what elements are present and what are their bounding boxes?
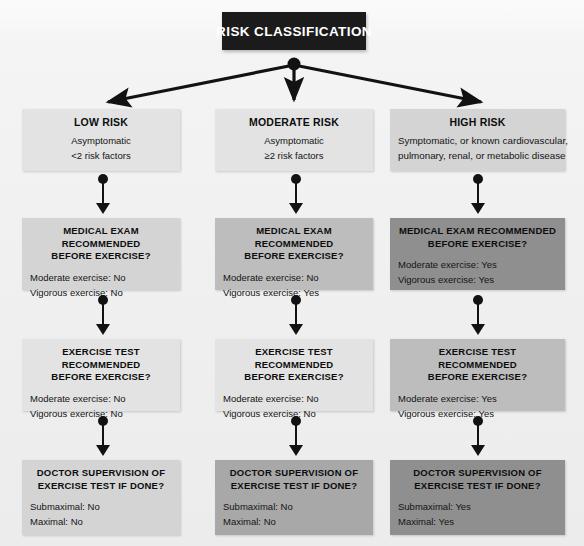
- connector-stem: [102, 182, 104, 204]
- medical-exam-moderate-high-risk: Moderate exercise: Yes: [398, 257, 557, 272]
- fanout-origin-dot: [288, 58, 301, 71]
- medical-exam-moderate-low-risk: Moderate exercise: No: [30, 270, 172, 285]
- exercise-test-title-line2-low-risk: BEFORE EXERCISE?: [30, 371, 172, 384]
- connector-stem: [295, 182, 297, 204]
- category-line2-low-risk: <2 risk factors: [30, 148, 172, 163]
- connector-exercise-test-to-supervision-moderate-risk: [288, 416, 304, 456]
- connector-stem: [102, 303, 104, 325]
- category-name-high-risk: HIGH RISK: [398, 116, 557, 129]
- supervision-maximal-low-risk: Maximal: No: [30, 514, 172, 529]
- exercise-test-moderate-moderate-risk: Moderate exercise: No: [223, 391, 365, 406]
- exercise-test-moderate-high-risk: Moderate exercise: Yes: [398, 391, 557, 406]
- supervision-maximal-moderate-risk: Maximal: No: [223, 514, 365, 529]
- medical-exam-title-line1-low-risk: MEDICAL EXAM RECOMMENDED: [30, 225, 172, 250]
- category-box-high-risk: HIGH RISK Symptomatic, or known cardiova…: [390, 109, 565, 171]
- connector-moderate-risk-to-medical-exam: [288, 174, 304, 214]
- connector-arrowhead: [289, 203, 303, 214]
- medical-exam-box-moderate-risk: MEDICAL EXAM RECOMMENDED BEFORE EXERCISE…: [215, 218, 373, 290]
- medical-exam-title-line2-high-risk: BEFORE EXERCISE?: [398, 238, 557, 251]
- category-name-low-risk: LOW RISK: [30, 116, 172, 129]
- supervision-title-line1-moderate-risk: DOCTOR SUPERVISION OF: [223, 467, 365, 480]
- connector-arrowhead: [471, 203, 485, 214]
- arrow-to-high-risk: [294, 65, 481, 102]
- connector-arrowhead: [471, 445, 485, 456]
- connector-stem: [477, 303, 479, 325]
- medical-exam-title-line1-moderate-risk: MEDICAL EXAM RECOMMENDED: [223, 225, 365, 250]
- category-line2-high-risk: pulmonary, renal, or metabolic disease: [398, 148, 557, 163]
- connector-stem: [477, 424, 479, 446]
- category-line1-high-risk: Symptomatic, or known cardiovascular,: [398, 133, 557, 148]
- connector-exercise-test-to-supervision-low-risk: [95, 416, 111, 456]
- connector-arrowhead: [471, 324, 485, 335]
- exercise-test-title-line1-moderate-risk: EXERCISE TEST RECOMMENDED: [223, 346, 365, 371]
- connector-medical-exam-to-exercise-test-moderate-risk: [288, 295, 304, 335]
- supervision-title-line2-high-risk: EXERCISE TEST IF DONE?: [398, 480, 557, 493]
- exercise-test-title-line1-high-risk: EXERCISE TEST RECOMMENDED: [398, 346, 557, 371]
- supervision-title-line1-low-risk: DOCTOR SUPERVISION OF: [30, 467, 172, 480]
- supervision-title-line2-low-risk: EXERCISE TEST IF DONE?: [30, 480, 172, 493]
- exercise-test-box-moderate-risk: EXERCISE TEST RECOMMENDED BEFORE EXERCIS…: [215, 339, 373, 411]
- diagram-title-box: RISK CLASSIFICATION: [222, 12, 366, 50]
- fanout-connector: [0, 50, 584, 112]
- exercise-test-title-line2-high-risk: BEFORE EXERCISE?: [398, 371, 557, 384]
- exercise-test-title-line1-low-risk: EXERCISE TEST RECOMMENDED: [30, 346, 172, 371]
- category-line1-low-risk: Asymptomatic: [30, 133, 172, 148]
- connector-stem: [295, 303, 297, 325]
- exercise-test-title-line2-moderate-risk: BEFORE EXERCISE?: [223, 371, 365, 384]
- supervision-maximal-high-risk: Maximal: Yes: [398, 514, 557, 529]
- category-box-moderate-risk: MODERATE RISK Asymptomatic ≥2 risk facto…: [215, 109, 373, 171]
- supervision-box-high-risk: DOCTOR SUPERVISION OF EXERCISE TEST IF D…: [390, 460, 565, 535]
- category-box-low-risk: LOW RISK Asymptomatic <2 risk factors: [22, 109, 180, 171]
- supervision-title-line1-high-risk: DOCTOR SUPERVISION OF: [398, 467, 557, 480]
- supervision-box-moderate-risk: DOCTOR SUPERVISION OF EXERCISE TEST IF D…: [215, 460, 373, 535]
- connector-exercise-test-to-supervision-high-risk: [470, 416, 486, 456]
- connector-arrowhead: [96, 324, 110, 335]
- connector-stem: [102, 424, 104, 446]
- connector-medical-exam-to-exercise-test-low-risk: [95, 295, 111, 335]
- exercise-test-moderate-low-risk: Moderate exercise: No: [30, 391, 172, 406]
- connector-arrowhead: [96, 203, 110, 214]
- medical-exam-title-line2-moderate-risk: BEFORE EXERCISE?: [223, 250, 365, 263]
- supervision-title-line2-moderate-risk: EXERCISE TEST IF DONE?: [223, 480, 365, 493]
- category-line2-moderate-risk: ≥2 risk factors: [223, 148, 365, 163]
- medical-exam-title-line2-low-risk: BEFORE EXERCISE?: [30, 250, 172, 263]
- connector-arrowhead: [96, 445, 110, 456]
- category-name-moderate-risk: MODERATE RISK: [223, 116, 365, 129]
- medical-exam-box-low-risk: MEDICAL EXAM RECOMMENDED BEFORE EXERCISE…: [22, 218, 180, 290]
- arrow-to-low-risk: [108, 65, 294, 102]
- connector-stem: [295, 424, 297, 446]
- category-line1-moderate-risk: Asymptomatic: [223, 133, 365, 148]
- connector-stem: [477, 182, 479, 204]
- supervision-submaximal-moderate-risk: Submaximal: No: [223, 499, 365, 514]
- medical-exam-vigorous-high-risk: Vigorous exercise: Yes: [398, 272, 557, 287]
- exercise-test-box-high-risk: EXERCISE TEST RECOMMENDED BEFORE EXERCIS…: [390, 339, 565, 411]
- medical-exam-moderate-moderate-risk: Moderate exercise: No: [223, 270, 365, 285]
- medical-exam-box-high-risk: MEDICAL EXAM RECOMMENDED BEFORE EXERCISE…: [390, 218, 565, 290]
- connector-arrowhead: [289, 324, 303, 335]
- connector-arrowhead: [289, 445, 303, 456]
- connector-low-risk-to-medical-exam: [95, 174, 111, 214]
- supervision-submaximal-low-risk: Submaximal: No: [30, 499, 172, 514]
- page-title: RISK CLASSIFICATION: [216, 24, 372, 39]
- supervision-box-low-risk: DOCTOR SUPERVISION OF EXERCISE TEST IF D…: [22, 460, 180, 535]
- medical-exam-title-line1-high-risk: MEDICAL EXAM RECOMMENDED: [398, 225, 557, 238]
- connector-medical-exam-to-exercise-test-high-risk: [470, 295, 486, 335]
- supervision-submaximal-high-risk: Submaximal: Yes: [398, 499, 557, 514]
- connector-high-risk-to-medical-exam: [470, 174, 486, 214]
- diagram-canvas: RISK CLASSIFICATION LOW RISK Asymptomati…: [0, 0, 584, 546]
- exercise-test-box-low-risk: EXERCISE TEST RECOMMENDED BEFORE EXERCIS…: [22, 339, 180, 411]
